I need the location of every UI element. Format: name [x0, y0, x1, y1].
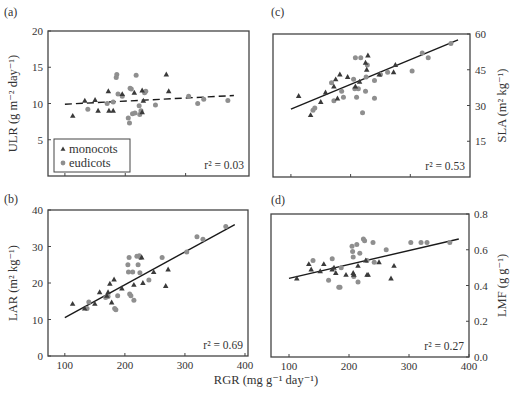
monocot-point: [111, 276, 117, 281]
eudicot-point: [200, 237, 205, 242]
eudicot-point: [360, 110, 365, 115]
eudicot-point: [372, 96, 377, 101]
monocot-point: [105, 289, 111, 294]
y-tick-label: 15: [32, 61, 44, 73]
monocot-point: [92, 97, 98, 102]
y-tick-label: 20: [32, 277, 44, 289]
eudicot-point: [160, 255, 165, 260]
panel-b-lar: (b)010203040100200300400LAR (m² kg⁻¹)r² …: [4, 192, 254, 371]
eudicot-point: [195, 101, 200, 106]
eudicot-point: [186, 94, 191, 99]
eudicot-point: [127, 121, 132, 126]
eudicot-point: [384, 247, 389, 252]
eudicot-point: [408, 240, 413, 245]
monocot-point: [364, 67, 370, 72]
y-tick-label: 15: [475, 135, 487, 147]
eudicot-point: [127, 255, 132, 260]
y-axis-label: SLA (m² kg⁻¹): [495, 69, 509, 143]
x-tick-label: 200: [117, 359, 134, 371]
eudicot-point: [311, 258, 316, 263]
eudicot-point: [420, 51, 425, 56]
monocot-point: [308, 267, 314, 272]
y-tick-label: 30: [32, 241, 44, 253]
eudicot-point: [371, 240, 376, 245]
axes-frame: [271, 214, 469, 357]
monocot-point: [318, 99, 324, 104]
eudicot-point: [114, 72, 119, 77]
monocot-point: [308, 112, 314, 117]
r-squared-label: r² = 0.69: [203, 339, 243, 351]
eudicot-point: [364, 74, 369, 79]
panel-label: (b): [4, 192, 18, 206]
monocot-point: [165, 267, 171, 272]
eudicot-point: [225, 98, 230, 103]
eudicot-point: [339, 89, 344, 94]
r-squared-label: r² = 0.27: [424, 340, 464, 352]
monocot-point: [82, 98, 88, 103]
monocot-point: [353, 84, 359, 89]
eudicot-point: [356, 279, 361, 284]
eudicot-point: [338, 285, 343, 290]
panel-label: (c): [271, 5, 284, 19]
eudicot-point: [372, 78, 377, 83]
eudicot-point: [128, 293, 133, 298]
monocot-point: [163, 283, 169, 288]
y-axis-label: LAR (m² kg⁻¹): [6, 245, 20, 321]
monocot-point: [345, 74, 351, 79]
panel-c-sla: (c)15304560SLA (m² kg⁻¹)r² = 0.53: [271, 5, 509, 177]
axes-frame: [48, 210, 248, 356]
regression-line: [65, 96, 234, 105]
eudicot-point: [358, 55, 363, 60]
legend-label: eudicots: [69, 156, 111, 170]
y-axis-label: ULR (g m⁻² day⁻¹): [6, 55, 20, 152]
eudicot-point: [134, 73, 139, 78]
legend-label: monocots: [69, 142, 118, 156]
eudicot-point: [350, 244, 355, 249]
eudicot-point: [354, 95, 359, 100]
monocot-point: [164, 72, 170, 77]
monocot-point: [107, 281, 113, 286]
monocot-point: [333, 76, 339, 81]
eudicot-point: [447, 240, 452, 245]
x-tick-label: 400: [461, 360, 478, 372]
eudicot-point: [184, 249, 189, 254]
r-squared-label: r² = 0.03: [204, 159, 244, 171]
axes-frame: [273, 34, 470, 177]
eudicot-point: [131, 298, 136, 303]
monocot-point: [363, 60, 369, 65]
y-tick-label: 0: [38, 350, 44, 362]
eudicot-point: [86, 299, 91, 304]
eudicot-point: [326, 278, 331, 283]
monocot-point: [110, 108, 116, 113]
y-axis-label: LMF (g g⁻¹): [495, 254, 509, 317]
y-tick-label: 0.8: [474, 208, 488, 220]
monocot-point: [337, 72, 343, 77]
legend: monocotseudicots: [54, 139, 130, 172]
monocot-point: [321, 261, 327, 266]
monocot-point: [166, 88, 172, 93]
eudicot-point: [125, 262, 130, 267]
monocot-point: [376, 259, 382, 264]
y-tick-label: 0.6: [474, 244, 488, 256]
monocot-point: [335, 95, 341, 100]
eudicot-point: [130, 270, 135, 275]
eudicot-point: [201, 97, 206, 102]
eudicot-point: [385, 70, 390, 75]
y-tick-label: 10: [32, 314, 44, 326]
eudicot-point: [111, 100, 116, 105]
eudicot-point: [132, 110, 137, 115]
eudicot-point: [137, 270, 142, 275]
monocot-point: [391, 69, 397, 74]
panel-a-ulr: (a)5101520ULR (g m⁻² day⁻¹)r² = 0.03mono…: [4, 5, 249, 176]
monocot-point: [391, 263, 397, 268]
eudicot-point: [448, 41, 453, 46]
y-tick-label: 45: [475, 64, 487, 76]
panel-d-lmf: (d)0.00.20.40.60.8100200300400LMF (g g⁻¹…: [271, 193, 509, 372]
monocot-point: [306, 261, 312, 266]
monocot-point: [109, 299, 115, 304]
y-tick-label: 0.4: [474, 280, 488, 292]
eudicot-point: [115, 293, 120, 298]
eudicot-point: [351, 254, 356, 259]
figure-canvas: (a)5101520ULR (g m⁻² day⁻¹)r² = 0.03mono…: [0, 0, 517, 398]
x-tick-label: 200: [341, 360, 358, 372]
